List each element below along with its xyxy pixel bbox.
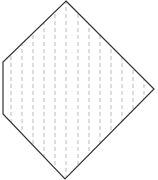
hatched-pentagon-diagram <box>0 0 158 180</box>
hatch-lines <box>11 0 144 180</box>
pentagon-outline <box>3 1 154 179</box>
